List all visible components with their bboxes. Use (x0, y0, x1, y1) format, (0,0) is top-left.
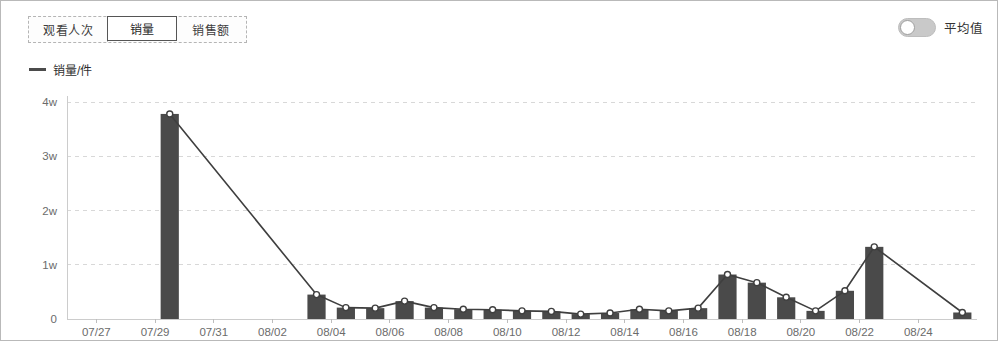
data-point-marker (548, 308, 554, 314)
data-point-marker (402, 298, 408, 304)
bar (689, 308, 707, 319)
data-point-marker (724, 272, 730, 278)
data-point-marker (431, 305, 437, 311)
data-point-marker (490, 307, 496, 313)
data-point-marker (842, 288, 848, 294)
data-point-marker (813, 308, 819, 314)
data-point-marker (959, 309, 965, 315)
data-point-marker (372, 305, 378, 311)
data-point-marker (167, 111, 173, 117)
data-point-marker (578, 311, 584, 317)
bar (395, 301, 413, 319)
tab-sales-volume[interactable]: 销量 (107, 16, 177, 41)
svg-text:08/06: 08/06 (376, 326, 405, 338)
bar (865, 247, 883, 319)
bar (660, 311, 678, 319)
x-axis-labels: 07/2707/2907/3108/0208/0408/0608/0808/10… (82, 326, 933, 338)
svg-text:1w: 1w (42, 259, 57, 271)
bar (366, 308, 384, 319)
svg-text:08/18: 08/18 (728, 326, 757, 338)
tab-sales-amount[interactable]: 销售额 (176, 17, 246, 42)
data-point-marker (314, 292, 320, 298)
data-point-marker (519, 308, 525, 314)
bar (337, 308, 355, 319)
bar (601, 313, 619, 319)
data-point-marker (754, 280, 760, 286)
legend-line-icon (29, 68, 46, 71)
svg-text:3w: 3w (42, 150, 57, 162)
bar (718, 275, 736, 319)
svg-text:08/16: 08/16 (669, 326, 698, 338)
y-axis-labels: 01w2w3w4w (42, 96, 57, 325)
svg-text:07/27: 07/27 (82, 326, 111, 338)
toggle-knob (900, 20, 915, 35)
sales-chart-panel: 观看人次 销量 销售额 平均值 销量/件 01w2w3w4w 07/2707/2… (0, 0, 998, 341)
data-point-marker (343, 305, 349, 311)
average-toggle-switch[interactable] (898, 18, 936, 37)
svg-text:08/24: 08/24 (904, 326, 933, 338)
sales-combo-chart: 01w2w3w4w 07/2707/2907/3108/0208/0408/06… (1, 1, 998, 341)
svg-text:08/02: 08/02 (258, 326, 287, 338)
data-point-marker (695, 305, 701, 311)
data-point-marker (666, 308, 672, 314)
bar (425, 308, 443, 319)
gridlines (67, 102, 977, 319)
svg-text:4w: 4w (42, 96, 57, 108)
bars (161, 114, 972, 319)
bar (630, 309, 648, 319)
data-point-marker (636, 306, 642, 312)
bar (836, 291, 854, 319)
svg-text:07/31: 07/31 (199, 326, 228, 338)
bar (777, 297, 795, 319)
data-point-marker (607, 310, 613, 316)
svg-text:08/04: 08/04 (317, 326, 346, 338)
bar (513, 311, 531, 319)
data-point-marker (871, 244, 877, 250)
svg-text:08/10: 08/10 (493, 326, 522, 338)
average-toggle-group: 平均值 (898, 18, 983, 37)
tab-viewer-count[interactable]: 观看人次 (29, 17, 108, 42)
data-point-marker (460, 306, 466, 312)
bar (572, 314, 590, 319)
chart-legend[interactable]: 销量/件 (29, 61, 92, 78)
bar (161, 114, 179, 319)
svg-text:0: 0 (51, 313, 57, 325)
legend-label: 销量/件 (53, 61, 92, 78)
svg-text:08/14: 08/14 (610, 326, 639, 338)
svg-text:08/20: 08/20 (786, 326, 815, 338)
svg-text:2w: 2w (42, 205, 57, 217)
svg-text:08/08: 08/08 (434, 326, 463, 338)
svg-text:08/22: 08/22 (845, 326, 874, 338)
bar (307, 295, 325, 319)
trend-line (170, 114, 963, 314)
metric-tab-group: 观看人次 销量 销售额 (28, 16, 247, 43)
bar (454, 309, 472, 319)
data-point-markers (167, 111, 966, 317)
x-axis-ticks (96, 319, 918, 323)
bar (953, 312, 971, 319)
average-toggle-label: 平均值 (944, 18, 983, 37)
bar (542, 311, 560, 319)
svg-text:08/12: 08/12 (552, 326, 581, 338)
bar (806, 311, 824, 319)
bar (748, 283, 766, 319)
svg-text:07/29: 07/29 (141, 326, 170, 338)
bar (484, 310, 502, 319)
data-point-marker (783, 294, 789, 300)
